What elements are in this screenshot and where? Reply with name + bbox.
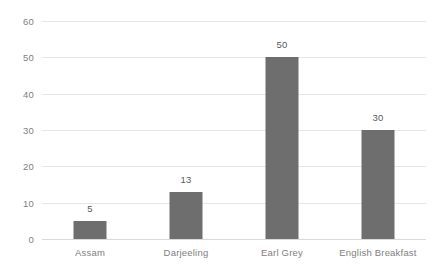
y-tick-label-0: 0 (0, 234, 34, 245)
bar-assam[interactable] (74, 221, 107, 239)
x-tick-label-earl-grey: Earl Grey (234, 247, 330, 258)
bar-earl-grey[interactable] (266, 57, 299, 239)
x-axis-line (42, 239, 426, 240)
data-label-english-breakfast: 30 (373, 112, 384, 123)
data-label-darjeeling: 13 (181, 174, 192, 185)
bar-english-breakfast[interactable] (362, 130, 395, 239)
y-tick-label-60: 60 (0, 16, 34, 27)
bar-slot-earl-grey (234, 21, 330, 239)
bar-slot-english-breakfast (330, 21, 426, 239)
x-tick-label-english-breakfast: English Breakfast (330, 247, 426, 258)
bars-layer (42, 21, 426, 239)
bar-chart: 60 50 40 30 20 10 0 5 13 50 30 Assam Dar… (0, 0, 434, 274)
y-tick-label-30: 30 (0, 125, 34, 136)
y-tick-label-50: 50 (0, 52, 34, 63)
bar-darjeeling[interactable] (170, 192, 203, 239)
y-tick-label-40: 40 (0, 89, 34, 100)
y-tick-label-10: 10 (0, 198, 34, 209)
x-tick-label-darjeeling: Darjeeling (138, 247, 234, 258)
bar-slot-darjeeling (138, 21, 234, 239)
x-tick-label-assam: Assam (42, 247, 138, 258)
y-tick-label-20: 20 (0, 161, 34, 172)
data-label-assam: 5 (87, 203, 92, 214)
data-label-earl-grey: 50 (277, 39, 288, 50)
